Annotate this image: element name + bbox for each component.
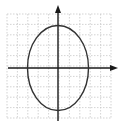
graph-svg: [0, 0, 125, 129]
grid-lines: [7, 14, 111, 118]
coordinate-plane-diagram: [0, 0, 125, 129]
axes: [8, 5, 118, 121]
y-axis-arrow-icon: [55, 5, 61, 13]
x-axis-arrow-icon: [110, 65, 118, 71]
